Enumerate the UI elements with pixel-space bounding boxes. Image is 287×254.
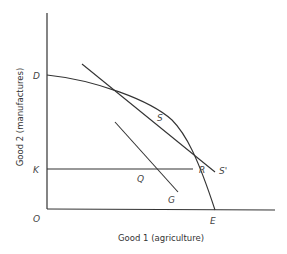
label-k: K	[33, 165, 40, 175]
transformation-curve	[47, 75, 215, 210]
label-s: S	[157, 113, 163, 123]
label-s-prime: S'	[219, 166, 227, 176]
label-q: Q	[137, 174, 144, 184]
label-r: R	[199, 165, 205, 175]
label-d: D	[33, 71, 40, 81]
line-q-g	[115, 122, 178, 192]
ppf-diagram: D K O S Q R S' G E Good 1 (agriculture) …	[0, 0, 287, 254]
y-axis-title: Good 2 (manufactures)	[15, 68, 25, 167]
x-axis	[47, 209, 275, 210]
label-g: G	[168, 195, 175, 205]
label-o: O	[33, 214, 40, 224]
x-axis-title: Good 1 (agriculture)	[118, 233, 204, 243]
price-line-ss-prime	[82, 64, 215, 172]
label-e: E	[210, 216, 216, 226]
